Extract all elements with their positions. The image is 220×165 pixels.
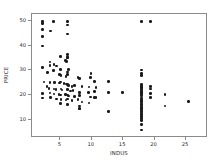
x-axis-tick bbox=[91, 137, 92, 140]
scatter-point bbox=[49, 92, 52, 95]
scatter-point bbox=[87, 91, 90, 94]
scatter-point bbox=[41, 66, 44, 69]
scatter-point bbox=[72, 89, 75, 92]
scatter-point bbox=[71, 99, 74, 102]
scatter-point bbox=[41, 28, 44, 31]
scatter-point bbox=[41, 45, 44, 48]
scatter-point bbox=[61, 89, 64, 92]
y-axis-tick-label: 10 bbox=[19, 116, 26, 122]
y-axis-tick bbox=[28, 45, 31, 46]
scatter-point bbox=[77, 98, 80, 101]
x-axis-tick-label: 15 bbox=[119, 141, 126, 147]
scatter-point bbox=[149, 92, 152, 95]
scatter-point bbox=[78, 77, 81, 80]
scatter-point bbox=[41, 35, 44, 38]
scatter-point bbox=[59, 55, 62, 58]
scatter-point bbox=[49, 61, 52, 64]
scatter-point bbox=[78, 107, 81, 110]
y-axis-tick bbox=[28, 119, 31, 120]
scatter-point bbox=[88, 86, 91, 89]
scatter-point bbox=[66, 103, 69, 106]
y-axis-tick bbox=[28, 20, 31, 21]
scatter-point bbox=[60, 98, 63, 101]
y-axis-label: PRICE bbox=[3, 67, 9, 84]
scatter-point bbox=[78, 91, 81, 94]
scatter-point bbox=[67, 84, 70, 87]
scatter-point bbox=[121, 91, 124, 94]
scatter-point bbox=[52, 69, 55, 72]
scatter-point bbox=[43, 81, 46, 84]
y-axis-tick-label: 50 bbox=[19, 17, 26, 23]
scatter-point bbox=[49, 30, 52, 33]
scatter-point bbox=[53, 93, 56, 96]
x-axis-tick bbox=[59, 137, 60, 140]
scatter-point bbox=[89, 96, 92, 99]
scatter-point bbox=[149, 20, 152, 23]
scatter-point bbox=[107, 91, 110, 94]
scatter-point bbox=[55, 65, 58, 68]
scatter-point bbox=[140, 129, 143, 132]
scatter-point bbox=[81, 101, 84, 104]
scatter-point bbox=[107, 80, 110, 83]
scatter-point bbox=[73, 84, 76, 87]
scatter-point bbox=[90, 72, 93, 75]
scatter-point bbox=[93, 96, 96, 99]
scatter-point bbox=[66, 56, 69, 59]
scatter-point bbox=[140, 74, 143, 77]
scatter-point bbox=[41, 22, 44, 25]
scatter-point bbox=[46, 71, 49, 74]
y-axis-tick bbox=[28, 94, 31, 95]
scatter-point bbox=[59, 102, 62, 105]
scatter-point bbox=[93, 90, 96, 93]
scatter-point bbox=[88, 102, 91, 105]
scatter-point bbox=[66, 24, 69, 27]
scatter-point bbox=[81, 85, 84, 88]
x-axis-tick bbox=[154, 137, 155, 140]
scatter-point bbox=[140, 119, 143, 122]
y-axis-tick-label: 20 bbox=[19, 91, 26, 97]
scatter-point bbox=[66, 20, 69, 23]
scatter-point bbox=[60, 74, 63, 77]
scatter-point bbox=[89, 76, 92, 79]
scatter-point bbox=[53, 81, 56, 84]
x-axis-tick bbox=[122, 137, 123, 140]
scatter-point bbox=[66, 73, 69, 76]
x-axis-tick-label: 10 bbox=[87, 141, 94, 147]
scatter-point bbox=[67, 95, 70, 98]
scatter-point bbox=[55, 98, 58, 101]
y-axis-tick-label: 30 bbox=[19, 66, 26, 72]
scatter-point bbox=[140, 69, 143, 72]
scatter-point bbox=[41, 92, 44, 95]
scatter-point bbox=[41, 97, 44, 100]
scatter-point bbox=[55, 88, 58, 91]
scatter-point bbox=[64, 59, 67, 62]
scatter-point bbox=[140, 123, 143, 126]
y-axis-tick bbox=[28, 69, 31, 70]
x-axis-tick-label: 20 bbox=[150, 141, 157, 147]
x-axis-label: INDUS bbox=[110, 150, 128, 156]
scatter-point bbox=[140, 20, 143, 23]
scatter-point bbox=[164, 105, 167, 108]
x-axis-tick-label: 25 bbox=[182, 141, 189, 147]
scatter-point bbox=[93, 80, 96, 83]
scatter-point bbox=[67, 68, 70, 71]
y-axis-tick-label: 40 bbox=[19, 42, 26, 48]
scatter-point bbox=[149, 96, 152, 99]
scatter-plot-figure: 5101520251020304050 INDUS PRICE bbox=[0, 0, 220, 165]
x-axis-tick-label: 5 bbox=[58, 141, 61, 147]
scatter-point bbox=[164, 93, 167, 96]
scatter-point bbox=[149, 88, 152, 91]
scatter-point bbox=[48, 87, 51, 90]
plot-axes-frame bbox=[31, 13, 207, 137]
scatter-point bbox=[66, 33, 69, 36]
scatter-point bbox=[49, 81, 52, 84]
x-axis-tick bbox=[185, 137, 186, 140]
scatter-point bbox=[49, 96, 52, 99]
scatter-point bbox=[59, 94, 62, 97]
scatter-points-layer bbox=[32, 14, 206, 136]
scatter-point bbox=[107, 110, 110, 113]
scatter-point bbox=[49, 64, 52, 67]
scatter-point bbox=[73, 95, 76, 98]
scatter-point bbox=[187, 100, 190, 103]
scatter-point bbox=[59, 68, 62, 71]
